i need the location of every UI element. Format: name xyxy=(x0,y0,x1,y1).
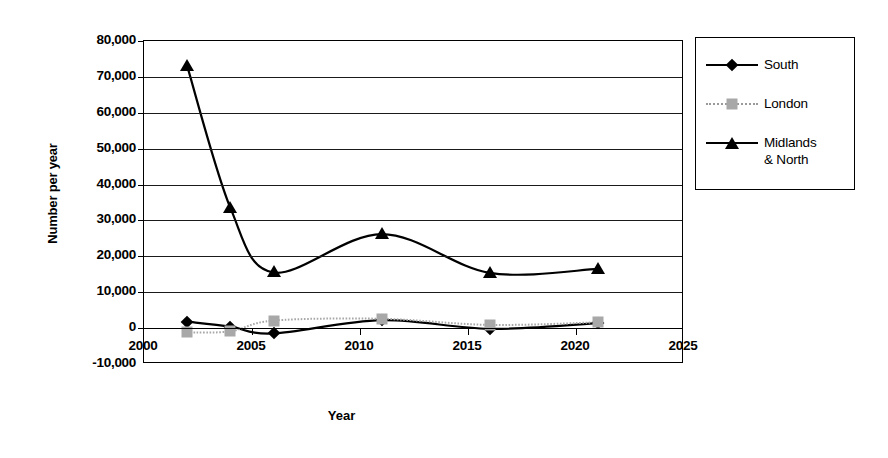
legend-swatch xyxy=(706,135,758,151)
legend-label: London xyxy=(758,95,808,112)
legend-label: Midlands & North xyxy=(758,134,816,168)
legend-item[interactable]: South xyxy=(706,56,798,73)
legend-label: South xyxy=(758,56,798,73)
legend-item[interactable]: Midlands & North xyxy=(706,134,816,168)
x-tick-label: 2025 xyxy=(669,338,698,353)
x-tick-label: 2005 xyxy=(237,338,266,353)
x-tick-label: 2010 xyxy=(345,338,374,353)
legend-item[interactable]: London xyxy=(706,95,808,112)
x-tick-label: 2020 xyxy=(561,338,590,353)
line-chart: Number per year -10,000010,00020,00030,0… xyxy=(0,0,888,458)
chart-legend: SouthLondonMidlands & North xyxy=(695,37,855,190)
x-tick-label: 2000 xyxy=(129,338,158,353)
x-axis-title: Year xyxy=(0,408,683,423)
legend-swatch xyxy=(706,57,758,73)
square-icon xyxy=(727,99,738,110)
x-tick-label: 2015 xyxy=(453,338,482,353)
legend-swatch xyxy=(706,96,758,112)
triangle-icon xyxy=(725,137,739,149)
diamond-icon xyxy=(726,59,739,72)
